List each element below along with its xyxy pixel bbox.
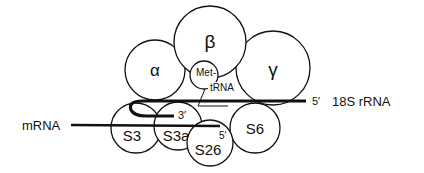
label-gamma: γ bbox=[268, 59, 278, 80]
rrna-3prime-label: 3′ bbox=[178, 109, 186, 121]
mrna-label: mRNA bbox=[22, 118, 61, 133]
label-beta: β bbox=[205, 31, 216, 52]
protein-s6: S6 bbox=[230, 103, 280, 153]
rrna-5prime-label: 5′ bbox=[312, 95, 320, 107]
rrna-label: 18S rRNA bbox=[332, 94, 391, 109]
label-s3: S3 bbox=[123, 127, 141, 144]
mrna-5prime-label: 5′ bbox=[219, 130, 227, 141]
ribosome-initiation-diagram: S3 S3a S6 S26 α γ β Met- tRNA 5′ 3′ 18S … bbox=[0, 0, 424, 173]
label-s6: S6 bbox=[246, 120, 264, 137]
label-trna: tRNA bbox=[210, 82, 234, 93]
label-s3a: S3a bbox=[163, 127, 190, 144]
label-met: Met- bbox=[196, 67, 216, 78]
label-alpha: α bbox=[150, 61, 160, 80]
subunit-gamma: γ bbox=[236, 31, 310, 105]
label-s26: S26 bbox=[195, 141, 222, 158]
